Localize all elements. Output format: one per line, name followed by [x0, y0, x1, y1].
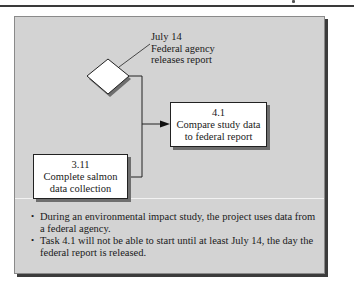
milestone-label-line1: Federal agency: [151, 43, 215, 55]
notes-list: During an environmental impact study, th…: [30, 211, 320, 259]
task-name-line1: Compare study data: [171, 119, 266, 131]
note-item: During an environmental impact study, th…: [30, 211, 320, 234]
milestone-date: July 14: [151, 31, 215, 43]
task-box-3-11: 3.11 Complete salmon data collection: [33, 154, 128, 199]
task-box-4-1: 4.1 Compare study data to federal report: [170, 102, 267, 147]
task-name-line2: to federal report: [171, 131, 266, 143]
milestone-label: July 14 Federal agency releases report: [151, 31, 215, 66]
milestone-leader-line: [119, 44, 150, 67]
arrow-head-icon: [160, 121, 170, 128]
milestone-label-line2: releases report: [151, 54, 215, 66]
note-item: Task 4.1 will not be able to start until…: [30, 235, 320, 258]
task-id: 3.11: [34, 159, 127, 171]
task-name-line2: data collection: [34, 183, 127, 195]
task-id: 4.1: [171, 107, 266, 119]
merge-connector: [128, 76, 142, 177]
task-name-line1: Complete salmon: [34, 171, 127, 183]
